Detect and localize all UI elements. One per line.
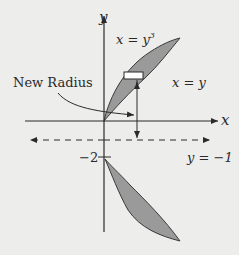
representative-rectangle [124,72,143,79]
x-axis-label: x [221,111,230,129]
axis-of-rotation-label: y = −1 [186,150,233,165]
y-axis-label: y [98,8,108,26]
curve-label-x-eq-y-cubed: x = y3 [116,31,155,47]
new-radius-label: New Radius [13,75,93,90]
tick-label-minus-two: −2 [79,150,98,165]
curve-label-x-eq-y: x = y [172,75,206,90]
lower-shaded-region [105,159,180,241]
diagram-canvas: y x x = y3 x = y New Radius −2 y = −1 [0,0,239,255]
